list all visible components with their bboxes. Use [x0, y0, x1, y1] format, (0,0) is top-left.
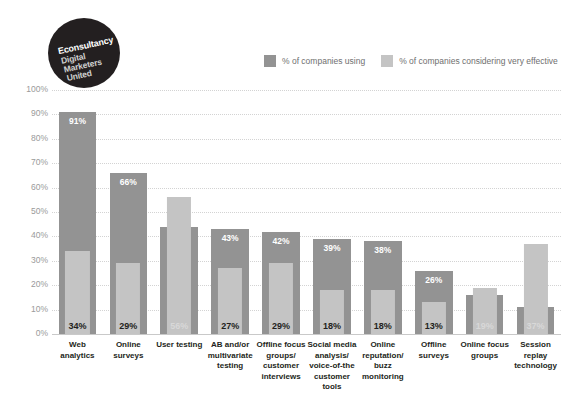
x-axis-label-line: User testing — [154, 340, 205, 351]
y-axis: 0%10%20%30%40%50%60%70%80%90%100% — [0, 90, 48, 334]
x-axis-label-line: Session — [510, 340, 561, 351]
x-axis-label-line: Web — [52, 340, 103, 351]
chart-figure: Econsultancy Digital Marketers United % … — [0, 0, 577, 406]
x-axis-label-line: surveys — [103, 351, 154, 362]
x-axis-label-3: AB and/ormultivariatetesting — [205, 340, 256, 372]
x-axis-label-2: User testing — [154, 340, 205, 351]
y-axis-tick-40: 40% — [2, 230, 48, 240]
legend-item-0: % of companies using — [264, 55, 365, 67]
bar-label-effective-3: 27% — [218, 321, 242, 331]
x-axis-label-line: buzz — [357, 361, 408, 372]
bar-effective-7[interactable]: 13% — [422, 302, 446, 334]
x-axis-label-9: Sessionreplaytechnology — [510, 340, 561, 372]
x-axis-label-7: Offlinesurveys — [408, 340, 459, 361]
x-axis-label-line: Online focus — [459, 340, 510, 351]
logo-line-1: Econsultancy — [57, 36, 114, 56]
x-axis-label-line: testing — [205, 361, 256, 372]
x-axis-label-0: Webanalytics — [52, 340, 103, 361]
bar-group-5[interactable]: 39%18% — [313, 90, 351, 334]
bar-group-1[interactable]: 66%29% — [110, 90, 148, 334]
legend-swatch-0 — [264, 55, 276, 67]
bar-label-effective-1: 29% — [116, 321, 140, 331]
x-axis-label-5: Social mediaanalysis/voice-of-thecustome… — [307, 340, 358, 393]
bar-label-using-6: 38% — [364, 245, 402, 255]
bar-effective-0[interactable]: 34% — [65, 251, 89, 334]
x-axis-label-line: technology — [510, 361, 561, 372]
plot-area: 91%34%66%29%44%56%43%27%42%29%39%18%38%1… — [52, 90, 561, 334]
x-axis-labels: WebanalyticsOnlinesurveysUser testingAB … — [52, 340, 561, 402]
chart-legend: % of companies using% of companies consi… — [264, 54, 574, 68]
x-axis-label-line: customer — [256, 361, 307, 372]
x-axis-label-line: AB and/or — [205, 340, 256, 351]
x-axis-label-1: Onlinesurveys — [103, 340, 154, 361]
bar-effective-5[interactable]: 18% — [320, 290, 344, 334]
bar-group-0[interactable]: 91%34% — [59, 90, 97, 334]
y-axis-tick-10: 10% — [2, 304, 48, 314]
x-axis-label-line: groups — [459, 351, 510, 362]
bar-label-using-5: 39% — [313, 243, 351, 253]
bar-label-using-0: 91% — [59, 116, 97, 126]
x-axis-label-line: Offline — [408, 340, 459, 351]
bar-group-7[interactable]: 26%13% — [415, 90, 453, 334]
bar-label-using-7: 26% — [415, 275, 453, 285]
bar-label-using-1: 66% — [110, 177, 148, 187]
x-axis-label-8: Online focusgroups — [459, 340, 510, 361]
bar-label-effective-6: 18% — [371, 321, 395, 331]
legend-swatch-1 — [381, 55, 393, 67]
logo-text: Econsultancy Digital Marketers United — [48, 18, 120, 88]
y-axis-tick-30: 30% — [2, 255, 48, 265]
x-axis-label-4: Offline focusgroups/customerinterviews — [256, 340, 307, 382]
bar-label-using-4: 42% — [262, 236, 300, 246]
y-axis-tick-80: 80% — [2, 133, 48, 143]
x-axis-label-line: analysis/ — [307, 351, 358, 362]
bar-effective-2[interactable]: 56% — [167, 197, 191, 334]
bar-effective-6[interactable]: 18% — [371, 290, 395, 334]
bar-effective-9[interactable]: 37% — [523, 244, 547, 334]
y-axis-tick-50: 50% — [2, 206, 48, 216]
legend-label-1: % of companies considering very effectiv… — [399, 56, 558, 66]
bar-group-9[interactable]: 11%37% — [517, 90, 555, 334]
x-axis-label-line: monitoring — [357, 372, 408, 383]
y-axis-tick-0: 0% — [2, 328, 48, 338]
x-axis-label-line: Offline focus — [256, 340, 307, 351]
x-axis-label-line: analytics — [52, 351, 103, 362]
x-axis-label-line: interviews — [256, 372, 307, 383]
bar-effective-8[interactable]: 19% — [473, 288, 497, 334]
x-axis-label-line: customer — [307, 372, 358, 383]
legend-label-0: % of companies using — [282, 56, 365, 66]
bar-label-effective-0: 34% — [65, 321, 89, 331]
gridline-0 — [52, 334, 561, 335]
x-axis-label-line: reputation/ — [357, 351, 408, 362]
legend-item-1: % of companies considering very effectiv… — [381, 55, 558, 67]
y-axis-tick-100: 100% — [2, 84, 48, 94]
x-axis-label-line: Social media — [307, 340, 358, 351]
bar-label-using-3: 43% — [211, 233, 249, 243]
bar-label-effective-5: 18% — [320, 321, 344, 331]
x-axis-label-line: surveys — [408, 351, 459, 362]
y-axis-tick-60: 60% — [2, 182, 48, 192]
bar-label-effective-2: 56% — [167, 321, 191, 331]
x-axis-label-line: Online — [103, 340, 154, 351]
bar-label-effective-4: 29% — [269, 321, 293, 331]
bar-label-effective-7: 13% — [422, 321, 446, 331]
x-axis-label-line: voice-of-the — [307, 361, 358, 372]
y-axis-tick-20: 20% — [2, 279, 48, 289]
bar-group-4[interactable]: 42%29% — [262, 90, 300, 334]
bar-group-2[interactable]: 44%56% — [160, 90, 198, 334]
x-axis-label-6: Onlinereputation/buzzmonitoring — [357, 340, 408, 382]
econsultancy-logo: Econsultancy Digital Marketers United — [48, 18, 120, 88]
y-axis-tick-90: 90% — [2, 108, 48, 118]
y-axis-tick-70: 70% — [2, 157, 48, 167]
x-axis-label-line: multivariate — [205, 351, 256, 362]
bar-effective-4[interactable]: 29% — [269, 263, 293, 334]
x-axis-label-line: tools — [307, 382, 358, 393]
bar-effective-1[interactable]: 29% — [116, 263, 140, 334]
x-axis-label-line: Online — [357, 340, 408, 351]
bar-effective-3[interactable]: 27% — [218, 268, 242, 334]
bar-label-effective-8: 19% — [473, 321, 497, 331]
x-axis-label-line: groups/ — [256, 351, 307, 362]
x-axis-label-line: replay — [510, 351, 561, 362]
bar-group-6[interactable]: 38%18% — [364, 90, 402, 334]
bar-group-3[interactable]: 43%27% — [211, 90, 249, 334]
bar-group-8[interactable]: 16%19% — [466, 90, 504, 334]
